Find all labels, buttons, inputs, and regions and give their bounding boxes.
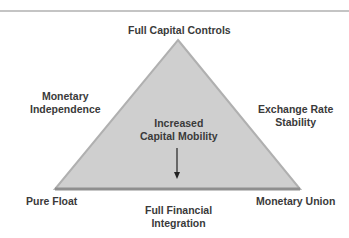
label-line: Monetary [30, 90, 101, 103]
label-full-financial-integration: Full Financial Integration [145, 204, 212, 230]
label-line: Exchange Rate [258, 103, 333, 116]
label-line: Integration [145, 217, 212, 230]
label-exchange-rate-stability: Exchange Rate Stability [258, 103, 333, 129]
label-increased-capital-mobility: Increased Capital Mobility [140, 117, 218, 143]
label-full-capital-controls: Full Capital Controls [128, 24, 231, 37]
label-monetary-union: Monetary Union [256, 195, 335, 208]
label-line: Capital Mobility [140, 130, 218, 143]
label-pure-float: Pure Float [26, 195, 77, 208]
label-line: Full Financial [145, 204, 212, 217]
label-line: Independence [30, 103, 101, 116]
label-monetary-independence: Monetary Independence [30, 90, 101, 116]
label-line: Stability [258, 116, 333, 129]
label-line: Increased [140, 117, 218, 130]
